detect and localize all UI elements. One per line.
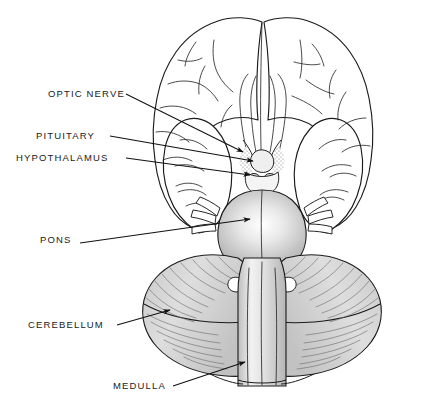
label-pituitary: PITUITARY xyxy=(36,130,95,141)
pituitary-stalk xyxy=(251,150,274,173)
basal-structures-group xyxy=(239,140,284,192)
label-medulla: MEDULLA xyxy=(113,380,166,391)
cerebellum-left xyxy=(143,255,243,376)
medulla-group xyxy=(238,258,286,386)
label-hypothalamus: HYPOTHALAMUS xyxy=(16,152,108,163)
labels-group: OPTIC NERVE PITUITARY HYPOTHALAMUS PONS … xyxy=(16,88,166,391)
label-cerebellum: CEREBELLUM xyxy=(28,319,104,330)
hypothalamic-floor xyxy=(245,172,279,192)
label-pons: PONS xyxy=(40,234,72,245)
brain-diagram-svg: OPTIC NERVE PITUITARY HYPOTHALAMUS PONS … xyxy=(0,0,423,418)
cerebellum-right xyxy=(281,255,381,376)
label-optic-nerve: OPTIC NERVE xyxy=(48,88,125,99)
brain-inferior-view-figure: OPTIC NERVE PITUITARY HYPOTHALAMUS PONS … xyxy=(0,0,423,418)
longitudinal-fissure xyxy=(261,23,263,168)
pons-group xyxy=(218,190,306,262)
